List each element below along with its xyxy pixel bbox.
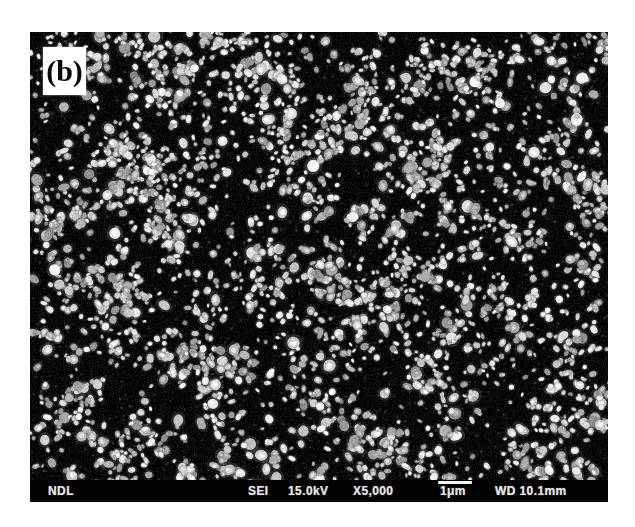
lab-label: NDL xyxy=(48,484,74,498)
detector-label: SEI xyxy=(248,484,269,498)
panel-label: (b) xyxy=(43,47,86,95)
figure-page: (b) NDL SEI 15.0kV X5,000 1μm WD 10.1mm xyxy=(0,0,635,527)
working-distance-label: WD 10.1mm xyxy=(495,484,567,498)
voltage-label: 15.0kV xyxy=(288,484,328,498)
magnification-label: X5,000 xyxy=(353,484,393,498)
sem-micrograph: (b) NDL SEI 15.0kV X5,000 1μm WD 10.1mm xyxy=(30,32,608,502)
scale-label: 1μm xyxy=(440,484,466,498)
sem-grain-texture xyxy=(30,32,608,502)
sem-info-bar: NDL SEI 15.0kV X5,000 1μm WD 10.1mm xyxy=(30,480,608,502)
